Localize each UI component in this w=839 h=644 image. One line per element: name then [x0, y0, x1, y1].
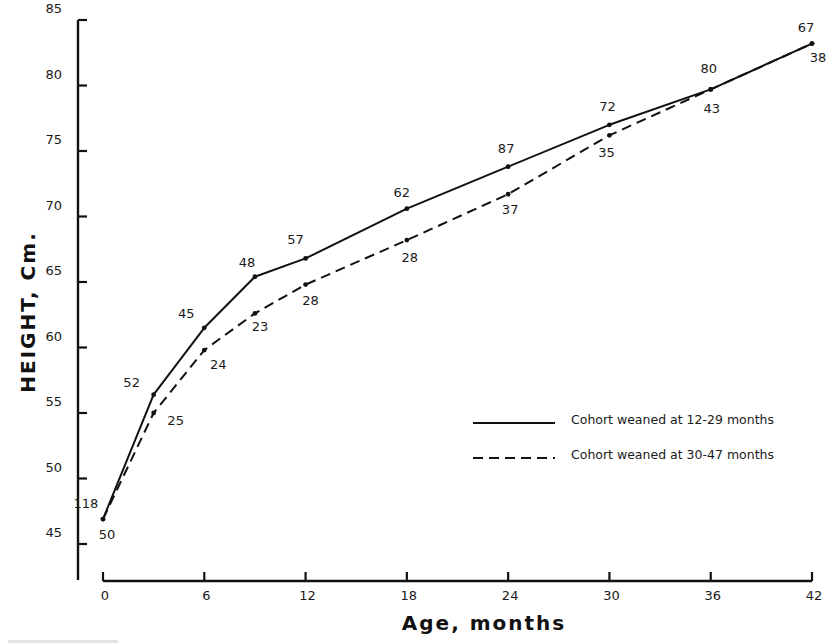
x-axis-title: Age, months [402, 611, 566, 635]
x-tick-label: 0 [101, 588, 109, 603]
series-1-n-label: 67 [798, 20, 815, 35]
series-2-n-label: 24 [210, 357, 227, 372]
series-2-point [810, 41, 815, 46]
y-axis-title: HEIGHT, Cm. [16, 231, 40, 392]
series-1-n-label: 72 [599, 99, 616, 114]
series-2-point [253, 311, 258, 316]
series-2-n-label: 28 [402, 250, 419, 265]
x-tick-label: 36 [704, 588, 721, 603]
series-1-n-label: 52 [123, 375, 140, 390]
series-2-n-label: 43 [703, 101, 720, 116]
series-1-point [404, 206, 409, 211]
y-tick-label: 85 [45, 1, 62, 16]
series-2-point [303, 282, 308, 287]
y-tick-label: 65 [45, 263, 62, 278]
series-1-point [607, 122, 612, 127]
series-2-n-label: 28 [302, 293, 319, 308]
clipped-caption-bottom [8, 640, 128, 644]
series-2-point [607, 133, 612, 138]
x-tick-label: 12 [299, 588, 316, 603]
series-2-point [708, 87, 713, 92]
y-axis: 455055606570758085 [45, 1, 87, 580]
clipped-caption-top [40, 0, 130, 1]
legend: Cohort weaned at 12-29 monthsCohort wean… [473, 412, 774, 462]
legend-label: Cohort weaned at 30-47 months [571, 447, 774, 462]
series-1-point [202, 325, 207, 330]
series-1-n-label: 87 [498, 141, 515, 156]
series-2-point [151, 411, 156, 416]
series-2-point [506, 192, 511, 197]
y-tick-label: 75 [45, 132, 62, 147]
legend-label: Cohort weaned at 12-29 months [571, 412, 774, 427]
series-2-n-label: 37 [502, 202, 519, 217]
series-1-n-label: 57 [287, 232, 304, 247]
series-2-point [101, 517, 106, 522]
x-tick-label: 18 [401, 588, 418, 603]
y-tick-label: 55 [45, 394, 62, 409]
series-1-n-label: 80 [700, 61, 717, 76]
x-tick-label: 24 [502, 588, 519, 603]
y-tick-label: 80 [45, 67, 62, 82]
height-by-age-chart: 455055606570758085 06121824303642 118524… [0, 0, 839, 644]
series-1-point [506, 164, 511, 169]
series-1-n-label: 48 [239, 255, 256, 270]
series-1-point [151, 392, 156, 397]
y-tick-label: 60 [45, 329, 62, 344]
series-2-point [404, 238, 409, 243]
x-axis: 06121824303642 [101, 572, 822, 603]
y-tick-label: 45 [45, 525, 62, 540]
x-tick-label: 42 [806, 588, 823, 603]
series-2-point [202, 348, 207, 353]
series-2-n-label: 25 [167, 413, 184, 428]
y-tick-label: 50 [45, 460, 62, 475]
point-labels: 1185245485762877280675025242328283735433… [74, 20, 827, 543]
series-2-n-label: 35 [598, 145, 615, 160]
series-2-n-label: 50 [99, 527, 116, 542]
x-tick-label: 6 [202, 588, 210, 603]
series-2-n-label: 23 [252, 319, 269, 334]
series-1-n-label: 45 [178, 306, 195, 321]
series-1-point [253, 274, 258, 279]
x-tick-label: 30 [603, 588, 620, 603]
series-1-n-label: 62 [394, 185, 411, 200]
series-1-n-label: 118 [74, 496, 99, 511]
series-1-point [303, 256, 308, 261]
series-2-n-label: 38 [810, 50, 827, 65]
y-tick-label: 70 [45, 198, 62, 213]
